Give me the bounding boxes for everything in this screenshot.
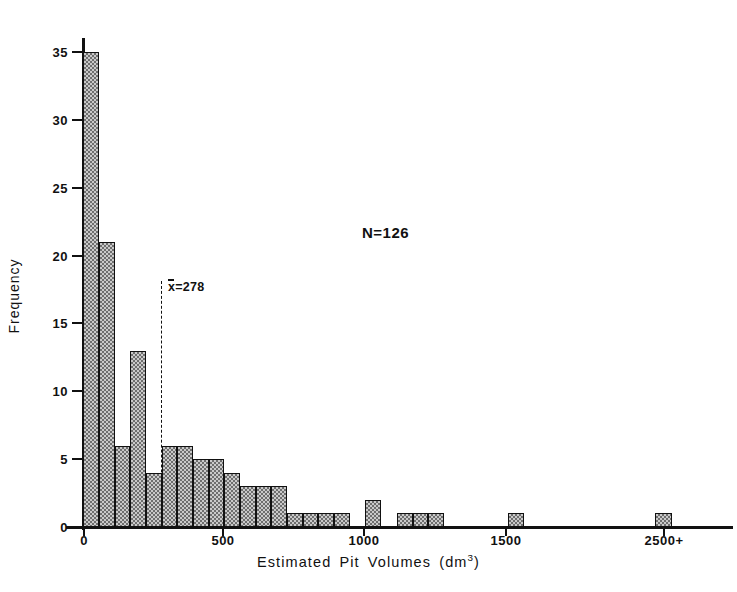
x-axis-title-main: Estimated Pit Volumes — [257, 554, 431, 570]
y-axis-tick — [72, 458, 83, 460]
histogram-bar — [413, 513, 428, 527]
x-axis-unit-open: (dm — [439, 554, 467, 570]
mean-value-label: x=278 — [168, 280, 205, 294]
y-axis-tick-label: 20 — [0, 248, 68, 263]
y-axis-tick-label: 25 — [0, 180, 68, 195]
histogram-bar — [115, 446, 130, 527]
histogram-bar — [365, 500, 381, 527]
histogram-bar — [508, 513, 524, 527]
histogram-bar — [224, 473, 240, 527]
y-axis-tick — [72, 526, 83, 528]
y-axis-tick — [72, 255, 83, 257]
y-axis-tick — [72, 187, 83, 189]
y-axis-tick — [72, 390, 83, 392]
y-axis-tick-label: 5 — [0, 452, 68, 467]
histogram-bar — [271, 486, 287, 527]
y-axis-tick-label: 0 — [0, 520, 68, 535]
histogram-bar — [655, 513, 672, 527]
histogram-bar — [162, 446, 177, 527]
histogram-bar — [256, 486, 271, 527]
histogram-bar — [130, 351, 146, 527]
histogram-bar — [99, 242, 115, 527]
histogram-bar — [177, 446, 193, 527]
histogram-bar — [303, 513, 318, 527]
histogram-bar — [334, 513, 350, 527]
y-axis-tick — [72, 51, 83, 53]
histogram-bar — [287, 513, 303, 527]
y-axis-tick — [72, 322, 83, 324]
x-axis-tick-label: 0 — [80, 533, 88, 548]
histogram-bar — [318, 513, 334, 527]
x-axis-tick-label: 2500+ — [644, 533, 683, 548]
y-axis-tick — [72, 119, 83, 121]
histogram-bar — [428, 513, 444, 527]
x-axis-unit-close: ) — [474, 554, 480, 570]
y-axis-tick-label: 10 — [0, 384, 68, 399]
y-axis-tick-label: 15 — [0, 316, 68, 331]
histogram-bar — [209, 459, 224, 527]
histogram-bar — [146, 473, 162, 527]
y-axis-tick-label: 30 — [0, 112, 68, 127]
histogram-bar — [397, 513, 413, 527]
mean-reference-line — [161, 281, 162, 527]
y-axis-tick-label: 35 — [0, 45, 68, 60]
x-axis-unit: (dm3) — [439, 554, 480, 570]
mean-symbol: x — [168, 280, 175, 294]
x-axis-tick-label: 500 — [211, 533, 234, 548]
x-axis-tick-label: 1000 — [349, 533, 380, 548]
histogram-bar — [193, 459, 209, 527]
histogram-bar — [83, 52, 99, 527]
y-axis-tick-labels: 05101520253035 — [0, 0, 70, 592]
histogram-bar — [240, 486, 256, 527]
sample-size-symbol: N — [362, 224, 373, 241]
x-axis-tick-label: 1500 — [491, 533, 522, 548]
sample-size-value: =126 — [373, 224, 409, 241]
histogram-figure: Frequency 05101520253035 050010001500250… — [0, 0, 737, 592]
sample-size-label: N=126 — [362, 224, 409, 241]
mean-value: =278 — [175, 280, 204, 294]
x-axis-title: Estimated Pit Volumes (dm3) — [0, 552, 737, 570]
